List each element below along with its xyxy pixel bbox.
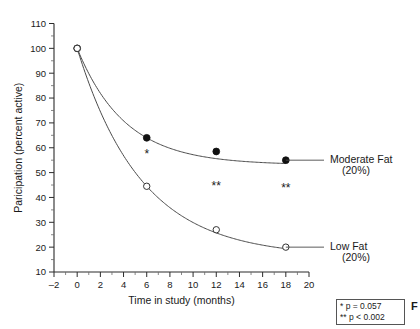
x-tick-label: 8 (167, 279, 172, 290)
x-tick-label: 20 (304, 279, 315, 290)
significance-legend-box: * p = 0.057 ** p < 0.002 (336, 299, 405, 325)
series-curve-1 (77, 48, 286, 248)
x-tick-label: 2 (98, 279, 103, 290)
y-tick-label: 100 (30, 43, 46, 54)
y-tick-label: 50 (35, 167, 46, 178)
legend-mark: * (340, 301, 343, 311)
y-tick-label: 90 (35, 68, 46, 79)
data-point-0-2[interactable] (213, 148, 220, 155)
y-tick-label: 80 (35, 92, 46, 103)
y-tick-label: 20 (35, 242, 46, 253)
y-axis-title: Paricipation (percent active) (12, 83, 24, 213)
x-tick-label: 0 (75, 279, 80, 290)
data-point-1-1[interactable] (144, 183, 150, 189)
y-tick-label: 110 (31, 18, 46, 29)
caption-fragment: F (411, 300, 420, 324)
figure-panel: 102030405060708090100110–202468101214161… (0, 0, 420, 329)
data-point-1-0[interactable] (74, 45, 80, 51)
series-label-0: Moderate Fat (330, 153, 393, 165)
legend-text: p = 0.057 (346, 301, 382, 311)
legend-text: p < 0.002 (349, 312, 385, 322)
data-point-1-2[interactable] (213, 227, 219, 233)
legend-row: ** p < 0.002 (340, 312, 401, 323)
chart-plot-area: 102030405060708090100110–202468101214161… (0, 0, 420, 329)
series-label-1: Low Fat (330, 240, 367, 252)
x-tick-label: 12 (211, 279, 222, 290)
x-tick-label: 4 (121, 279, 126, 290)
x-tick-label: –2 (49, 279, 60, 290)
x-tick-label: 14 (234, 279, 245, 290)
series-sublabel-1: (20%) (342, 251, 370, 263)
y-tick-label: 70 (35, 117, 46, 128)
x-axis-title: Time in study (months) (128, 294, 234, 306)
legend-mark: ** (340, 312, 347, 322)
x-tick-label: 18 (281, 279, 292, 290)
significance-marker-0: * (144, 147, 149, 161)
significance-marker-2: ** (281, 181, 291, 195)
significance-marker-1: ** (212, 179, 222, 193)
y-tick-label: 60 (35, 142, 46, 153)
series-sublabel-0: (20%) (342, 164, 370, 176)
y-tick-label: 40 (35, 192, 46, 203)
series-curve-0 (77, 48, 286, 163)
x-tick-label: 6 (144, 279, 149, 290)
legend-row: * p = 0.057 (340, 301, 401, 312)
data-point-0-1[interactable] (143, 134, 150, 141)
y-tick-label: 30 (35, 217, 46, 228)
x-tick-label: 16 (257, 279, 268, 290)
y-tick-label: 10 (35, 266, 46, 277)
x-tick-label: 10 (188, 279, 199, 290)
